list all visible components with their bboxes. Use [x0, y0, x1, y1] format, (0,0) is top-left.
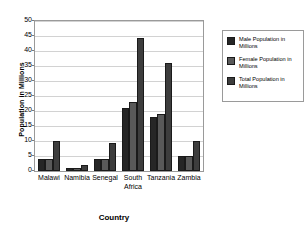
y-tick-label: 10 [8, 136, 32, 143]
bar [122, 108, 130, 171]
bar-group [35, 21, 63, 171]
y-tick-label: 25 [8, 91, 32, 98]
legend-label: Male Population in Millions [239, 36, 300, 49]
x-tick-label: South Africa [119, 174, 147, 191]
bar [94, 159, 102, 171]
bar [178, 156, 186, 171]
y-tick-label: 45 [8, 31, 32, 38]
bar [165, 63, 173, 171]
bar [38, 159, 46, 171]
y-tick-label: 35 [8, 61, 32, 68]
bar-group [147, 21, 175, 171]
bar [137, 38, 145, 172]
y-tick-label: 15 [8, 121, 32, 128]
bar [45, 159, 53, 171]
bar [53, 141, 61, 171]
legend-label: Total Population in Millions [239, 76, 300, 89]
y-axis-ticks: 05101520253035404550 [4, 20, 32, 172]
x-tick-label: Zambia [175, 174, 203, 183]
bar-group [91, 21, 119, 171]
bar [66, 168, 74, 171]
y-tick-label: 20 [8, 106, 32, 113]
legend-item: Female Population in Millions [227, 56, 300, 69]
y-tick-label: 50 [8, 16, 32, 23]
legend: Male Population in MillionsFemale Popula… [222, 30, 304, 102]
bar [150, 117, 158, 171]
bar-chart: Population in Millions 05101520253035404… [0, 0, 308, 231]
bar [129, 102, 137, 171]
legend-label: Female Population in Millions [239, 56, 300, 69]
legend-item: Male Population in Millions [227, 36, 300, 49]
bar-group [63, 21, 91, 171]
y-tick-label: 30 [8, 76, 32, 83]
y-tick-label: 5 [8, 151, 32, 158]
bar [109, 143, 117, 172]
bar [157, 114, 165, 171]
legend-swatch [227, 57, 235, 65]
legend-swatch [227, 77, 235, 85]
bar-group [119, 21, 147, 171]
bar [193, 141, 201, 171]
y-tick-label: 0 [8, 166, 32, 173]
bar [81, 165, 89, 171]
x-axis-title: Country [24, 213, 204, 222]
y-tick-label: 40 [8, 46, 32, 53]
x-axis-tick-labels: MalawiNamibiaSenegalSouth AfricaTanzania… [35, 174, 203, 204]
legend-swatch [227, 37, 235, 45]
bar [101, 159, 109, 171]
x-tick-label: Malawi [35, 174, 63, 183]
x-tick-label: Namibia [63, 174, 91, 183]
bar [73, 168, 81, 171]
bar-group [175, 21, 203, 171]
bars-layer [35, 21, 203, 171]
x-tick-label: Tanzania [147, 174, 175, 183]
legend-item: Total Population in Millions [227, 76, 300, 89]
bar [185, 156, 193, 171]
x-tick-label: Senegal [91, 174, 119, 183]
